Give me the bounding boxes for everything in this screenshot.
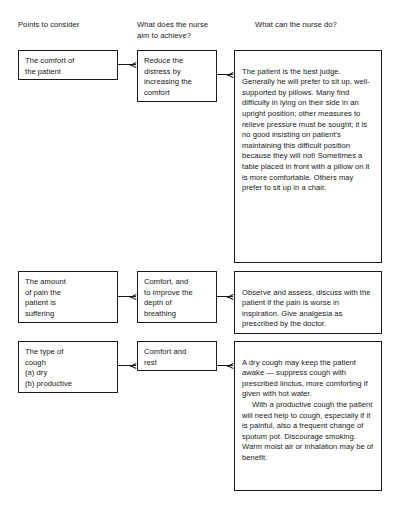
column-header-nurse-aim: What does the nurse aim to achieve?	[137, 20, 249, 41]
arrow-head	[130, 60, 136, 68]
node-action-cough-paragraph-2: With a productive cough the patient will…	[242, 400, 375, 464]
node-action-comfort: The patient is the best judge. Generally…	[234, 50, 382, 263]
node-action-pain: Observe and assess, discuss with the pat…	[234, 271, 382, 334]
node-point-cough: The type of cough (a) dry (b) productive	[18, 341, 118, 393]
arrow-right-icon	[217, 361, 233, 371]
node-aim-comfort: Reduce the distress by increasing the co…	[137, 50, 217, 102]
node-action-cough: A dry cough may keep the patient awake —…	[234, 341, 382, 491]
arrow-right-icon	[118, 292, 136, 302]
arrow-right-icon	[217, 292, 233, 302]
arrow-right-icon	[217, 70, 233, 80]
arrow-right-icon	[118, 60, 136, 70]
node-aim-cough: Comfort and rest	[137, 341, 217, 371]
arrow-right-icon	[118, 361, 136, 371]
column-header-nurse-action: What can the nurse do?	[255, 20, 390, 31]
node-point-comfort: The comfort of the patient	[18, 50, 118, 80]
arrow-head	[130, 361, 136, 369]
node-action-pain-paragraph-1: Observe and assess, discuss with the pat…	[242, 288, 370, 329]
arrow-head	[227, 361, 233, 369]
column-header-points-to-consider: Points to consider	[18, 20, 128, 31]
flowchart-sheet: Points to consider What does the nurse a…	[0, 0, 399, 510]
node-aim-pain: Comfort, and to improve the depth of bre…	[137, 271, 217, 323]
arrow-head	[130, 292, 136, 300]
arrow-head	[227, 292, 233, 300]
arrow-head	[227, 70, 233, 78]
node-action-comfort-paragraph-1: The patient is the best judge. Generally…	[242, 67, 370, 193]
node-action-cough-paragraph-1: A dry cough may keep the patient awake —…	[242, 358, 368, 399]
node-point-pain: The amount of pain the patient is suffer…	[18, 271, 118, 323]
